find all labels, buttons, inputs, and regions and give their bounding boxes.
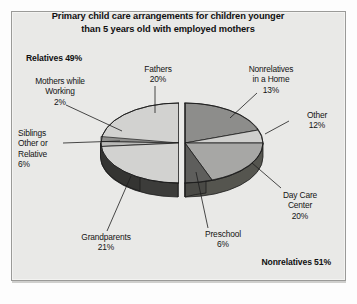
leader-line-other (265, 121, 289, 134)
slice-label-other-value: 12% (292, 120, 342, 130)
slice-label-grandparents-name: Grandparents (54, 232, 158, 242)
slice-label-nonrel-home-value: 13% (232, 85, 310, 95)
slice-label-daycare-value: 20% (268, 211, 332, 221)
slice-label-nonrelatives-in-a-home: Nonrelatives in a Home 13% (232, 64, 310, 95)
slice-label-siblings-line-3: Relative (18, 149, 80, 159)
slice-label-siblings-other-relative: Siblings Other or Relative 6% (18, 128, 80, 170)
slice-label-mothers-line-2: Working (18, 86, 102, 96)
chart-screenshot: Primary child care arrangements for chil… (0, 0, 357, 304)
slice-label-mothers-while-working: Mothers while Working 2% (18, 76, 102, 107)
slice-label-siblings-value: 6% (18, 159, 80, 169)
slice-label-grandparents-value: 21% (54, 242, 158, 252)
slice-label-fathers-value: 20% (129, 74, 187, 84)
slice-label-preschool: Preschool 6% (186, 229, 260, 250)
leader-line-nonrelatives-in-a-home (230, 93, 257, 118)
slice-label-day-care-center: Day Care Center 20% (268, 190, 332, 221)
slice-label-preschool-value: 6% (186, 239, 260, 249)
slice-label-nonrel-home-line-1: Nonrelatives (232, 64, 310, 74)
slice-label-preschool-name: Preschool (186, 229, 260, 239)
slice-label-siblings-line-2: Other or (18, 138, 80, 148)
slice-label-daycare-line-1: Day Care (268, 190, 332, 200)
slice-label-daycare-line-2: Center (268, 200, 332, 210)
slice-label-other: Other 12% (292, 110, 342, 131)
slice-label-mothers-line-1: Mothers while (18, 76, 102, 86)
slice-label-other-name: Other (292, 110, 342, 120)
leader-line-day-care-center (252, 163, 281, 188)
slice-label-grandparents: Grandparents 21% (54, 232, 158, 253)
pie-slice-fathers (101, 103, 179, 143)
slice-label-nonrel-home-line-2: in a Home (232, 74, 310, 84)
slice-label-siblings-line-1: Siblings (18, 128, 80, 138)
slice-label-fathers-name: Fathers (129, 64, 187, 74)
leader-line-grandparents (107, 176, 131, 231)
slice-label-fathers: Fathers 20% (129, 64, 187, 85)
slice-label-mothers-value: 2% (18, 97, 102, 107)
